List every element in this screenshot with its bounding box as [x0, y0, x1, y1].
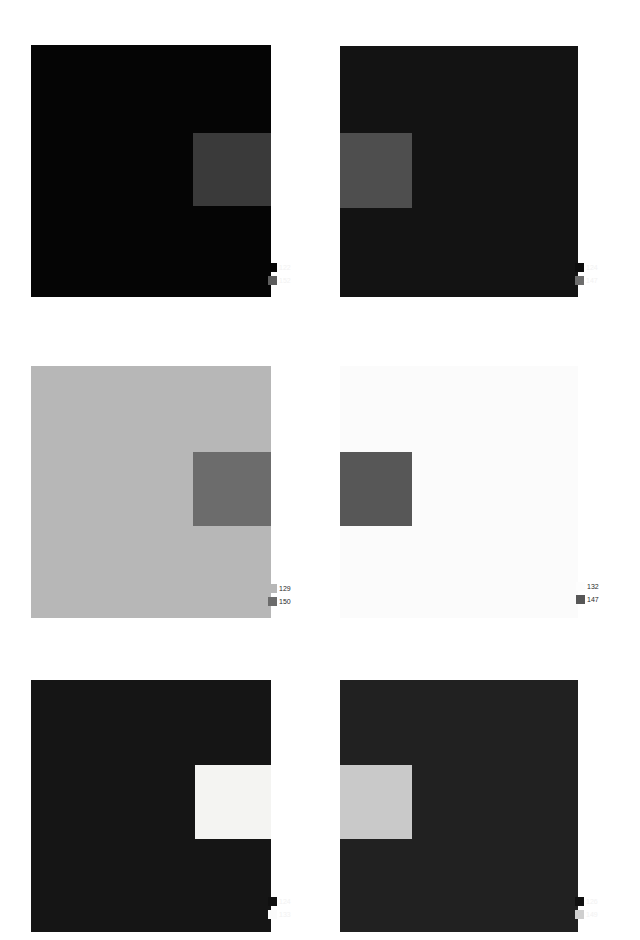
legend-label-patch: 152	[279, 276, 291, 285]
legend-entry-background: 124	[268, 896, 291, 907]
legend-entry-patch: 149	[575, 909, 598, 920]
panel-6-canvas	[340, 680, 578, 932]
panel-2-patch-region	[340, 133, 412, 208]
panel-6-legend: 126 149	[575, 896, 598, 920]
image-panel-2: 124 147	[340, 46, 578, 297]
panel-5-legend: 124 133	[268, 896, 291, 920]
legend-swatch-background	[268, 897, 277, 906]
legend-label-patch: 150	[279, 597, 291, 606]
legend-label-background: 132	[587, 582, 599, 591]
legend-swatch-patch	[268, 597, 277, 606]
panel-3-canvas	[31, 366, 271, 618]
legend-swatch-patch	[575, 276, 584, 285]
legend-entry-background: 132	[576, 581, 599, 592]
legend-swatch-background	[575, 897, 584, 906]
panel-1-canvas	[31, 45, 271, 297]
legend-entry-patch: 150	[268, 596, 291, 607]
legend-swatch-background	[576, 582, 585, 591]
legend-entry-background: 122	[268, 262, 291, 273]
image-panel-3: 129 150	[31, 366, 271, 618]
panel-4-patch-region	[340, 452, 412, 526]
legend-swatch-patch	[268, 910, 277, 919]
panel-1-patch-region	[193, 133, 271, 206]
panel-5-canvas	[31, 680, 271, 932]
legend-label-patch: 147	[587, 595, 599, 604]
legend-swatch-background	[268, 584, 277, 593]
legend-entry-background: 126	[575, 896, 598, 907]
panel-3-legend: 129 150	[268, 583, 291, 607]
image-panel-5: 124 133	[31, 680, 271, 932]
image-panel-4: 132 147	[340, 366, 578, 618]
legend-swatch-patch	[268, 276, 277, 285]
legend-entry-background: 129	[268, 583, 291, 594]
legend-label-patch: 133	[279, 910, 291, 919]
legend-label-background: 129	[279, 584, 291, 593]
panel-2-canvas	[340, 46, 578, 297]
legend-entry-patch: 133	[268, 909, 291, 920]
panel-4-canvas	[340, 366, 578, 618]
panel-2-legend: 124 147	[575, 262, 598, 286]
legend-label-background: 124	[279, 897, 291, 906]
legend-entry-patch: 147	[576, 594, 599, 605]
legend-swatch-patch	[575, 910, 584, 919]
legend-entry-patch: 147	[575, 275, 598, 286]
legend-label-background: 122	[279, 263, 291, 272]
legend-entry-background: 124	[575, 262, 598, 273]
panel-5-patch-region	[195, 765, 271, 839]
figure-panel-grid: 122 152 124 147	[0, 0, 640, 940]
legend-label-patch: 149	[586, 910, 598, 919]
panel-6-patch-region	[340, 765, 412, 839]
legend-swatch-background	[268, 263, 277, 272]
image-panel-1: 122 152	[31, 45, 271, 297]
panel-4-legend: 132 147	[576, 581, 599, 605]
legend-swatch-background	[575, 263, 584, 272]
legend-swatch-patch	[576, 595, 585, 604]
panel-1-legend: 122 152	[268, 262, 291, 286]
image-panel-6: 126 149	[340, 680, 578, 932]
panel-3-patch-region	[193, 452, 271, 526]
legend-label-patch: 147	[586, 276, 598, 285]
legend-label-background: 126	[586, 897, 598, 906]
legend-entry-patch: 152	[268, 275, 291, 286]
legend-label-background: 124	[586, 263, 598, 272]
